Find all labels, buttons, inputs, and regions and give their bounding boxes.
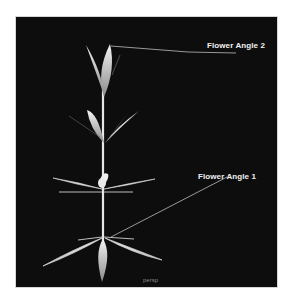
- top-flower: [86, 44, 120, 97]
- annotation-flower-angle-1: Flower Angle 1: [198, 172, 256, 181]
- camera-name-label: persp: [143, 277, 158, 283]
- plant-model: [16, 17, 277, 287]
- base-whorl: [43, 237, 162, 282]
- leader-line-flower-angle-1: [111, 177, 227, 237]
- maya-perspective-viewport[interactable]: Flower Angle 2 Flower Angle 1 persp: [16, 17, 277, 287]
- annotation-flower-angle-2: Flower Angle 2: [207, 41, 265, 50]
